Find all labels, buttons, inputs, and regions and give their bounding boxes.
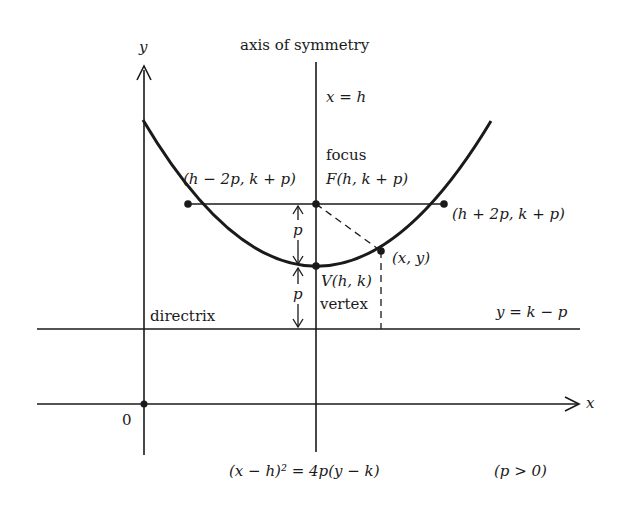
directrix-equation-label: y = k − p bbox=[495, 303, 568, 321]
origin-point bbox=[141, 401, 148, 408]
left-latus-point bbox=[184, 200, 192, 208]
axis-equation-label: x = h bbox=[326, 88, 366, 106]
p-upper-label: p bbox=[293, 221, 303, 239]
general-point bbox=[377, 247, 385, 255]
vertex-label: vertex bbox=[319, 295, 368, 313]
left-latus-point-label: (h − 2p, k + p) bbox=[183, 170, 296, 188]
focus-point-label: F(h, k + p) bbox=[325, 170, 408, 188]
origin-label: 0 bbox=[122, 411, 132, 429]
vertex-point-label: V(h, k) bbox=[321, 272, 372, 290]
focus-label: focus bbox=[326, 146, 366, 164]
p-lower-label: p bbox=[293, 285, 303, 303]
y-axis-label: y bbox=[138, 38, 148, 56]
axis-of-symmetry-label: axis of symmetry bbox=[240, 36, 370, 54]
x-axis-label: x bbox=[586, 394, 595, 412]
parabola-curve bbox=[143, 120, 491, 266]
focus-to-point-dashed bbox=[316, 204, 381, 251]
right-latus-point bbox=[440, 200, 448, 208]
focus-point bbox=[312, 200, 320, 208]
equation-label: (x − h)² = 4p(y − k) bbox=[229, 462, 380, 480]
parabola-diagram: y x 0 axis of symmetry x = h directrix y… bbox=[0, 0, 625, 512]
directrix-label: directrix bbox=[150, 307, 216, 325]
vertex-point bbox=[312, 262, 320, 270]
general-point-label: (x, y) bbox=[392, 249, 430, 267]
condition-label: (p > 0) bbox=[494, 462, 547, 480]
right-latus-point-label: (h + 2p, k + p) bbox=[452, 205, 565, 223]
